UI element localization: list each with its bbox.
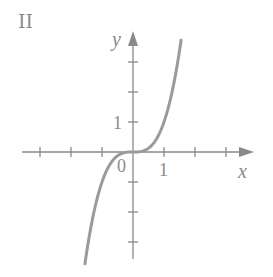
x-axis-arrow-icon bbox=[239, 147, 254, 157]
y-axis-label: y bbox=[110, 28, 121, 51]
y-axis-arrow-icon bbox=[128, 31, 138, 46]
axes bbox=[22, 31, 254, 259]
chart: y x 0 1 1 bbox=[0, 0, 273, 277]
origin-label: 0 bbox=[117, 156, 126, 176]
x-axis-label: x bbox=[237, 160, 247, 182]
y-tick-label-1: 1 bbox=[113, 113, 122, 133]
x-tick-label-1: 1 bbox=[159, 160, 168, 180]
